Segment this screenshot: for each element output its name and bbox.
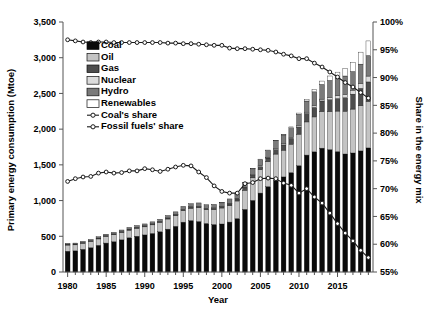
legend-label-oil: Oil	[101, 51, 114, 62]
bar-segment-coal	[358, 151, 363, 272]
bar-segment-hydro	[281, 135, 286, 144]
line-marker	[151, 41, 155, 45]
y-tick-label-right: 75%	[380, 156, 398, 166]
bar-segment-coal	[158, 232, 163, 272]
bar-segment-gas	[320, 101, 325, 112]
y-tick-label-left: 2,500	[33, 89, 56, 99]
x-tick-label: 2005	[250, 281, 270, 291]
chart-canvas: 05001,0001,5002,0002,5003,0003,50055%60%…	[0, 0, 427, 317]
bar-segment-coal	[281, 177, 286, 272]
line-marker	[251, 47, 255, 51]
bar-segment-coal	[104, 243, 109, 272]
bar-segment-gas	[304, 114, 309, 122]
line-marker	[336, 222, 340, 226]
line-marker	[251, 181, 255, 185]
line-marker	[274, 177, 278, 181]
bar-segment-hydro	[250, 169, 255, 175]
bar-segment-hydro	[327, 80, 332, 97]
bar-segment-coal	[173, 226, 178, 272]
bar-segment-oil	[212, 210, 217, 225]
legend-label-coal-s-share: Coal's share	[101, 109, 157, 120]
bar-segment-hydro	[312, 92, 317, 106]
bar-segment-oil	[165, 219, 170, 229]
bar-segment-renewables	[289, 127, 294, 128]
line-marker	[205, 176, 209, 180]
line-marker	[228, 46, 232, 50]
bar-segment-oil	[327, 112, 332, 150]
legend-label-gas: Gas	[101, 62, 119, 73]
bar-segment-coal	[150, 233, 155, 272]
bar-segment-coal	[351, 153, 356, 272]
bar-segment-coal	[135, 236, 140, 272]
y-axis-right-title: Share in the energy mix	[414, 96, 425, 204]
bar-segment-hydro	[65, 243, 70, 244]
bar-segment-oil	[96, 239, 101, 245]
bar-segment-nuclear	[343, 94, 348, 97]
line-marker	[189, 164, 193, 168]
bar-segment-gas	[327, 100, 332, 112]
bar-segment-coal	[312, 152, 317, 272]
legend-marker	[91, 125, 95, 129]
bar-segment-coal	[258, 193, 263, 272]
bar-segment-hydro	[297, 114, 302, 126]
bar-segment-hydro	[150, 222, 155, 224]
bar-segment-coal	[320, 148, 325, 272]
legend-label-nuclear: Nuclear	[101, 74, 136, 85]
bar-segment-oil	[81, 243, 86, 249]
bar-segment-coal	[212, 225, 217, 273]
bar-segment-renewables	[304, 99, 309, 101]
x-tick-label: 2000	[212, 281, 232, 291]
bar-segment-oil	[235, 201, 240, 219]
y-tick-label-left: 1,500	[33, 160, 56, 170]
bar-segment-nuclear	[304, 112, 309, 113]
line-marker	[351, 239, 355, 243]
line-marker	[297, 191, 301, 195]
line-marker	[220, 43, 224, 47]
bar-segment-oil	[289, 144, 294, 173]
bar-segment-nuclear	[320, 99, 325, 101]
bar-segment-hydro	[189, 204, 194, 207]
y-tick-label-right: 85%	[380, 101, 398, 111]
bar-segment-coal	[112, 242, 117, 272]
line-marker	[174, 41, 178, 45]
line-marker	[151, 168, 155, 172]
line-marker	[312, 195, 316, 199]
bar-segment-oil	[366, 101, 371, 147]
bar-segment-hydro	[273, 141, 278, 149]
line-marker	[181, 163, 185, 167]
legend-label-fossil-fuels-share: Fossil fuels' share	[101, 120, 184, 131]
line-marker	[343, 81, 347, 85]
legend-swatch-coal	[87, 42, 99, 50]
y-tick-label-right: 100%	[380, 17, 403, 27]
line-marker	[266, 48, 270, 52]
line-marker	[343, 231, 347, 235]
y-tick-label-left: 1,000	[33, 196, 56, 206]
bar-segment-nuclear	[366, 76, 371, 82]
bar-segment-oil	[65, 245, 70, 251]
line-marker	[366, 96, 370, 100]
line-marker	[81, 40, 85, 44]
bar-segment-oil	[135, 228, 140, 236]
bar-segment-oil	[335, 111, 340, 152]
bar-segment-coal	[196, 222, 201, 273]
line-marker	[282, 52, 286, 56]
line-marker	[73, 39, 77, 43]
bar-segment-coal	[181, 222, 186, 272]
line-marker	[73, 177, 77, 181]
bar-segment-gas	[312, 107, 317, 117]
bar-segment-oil	[243, 190, 248, 209]
line-marker	[127, 169, 131, 173]
line-marker	[305, 187, 309, 191]
bar-segment-oil	[297, 134, 302, 166]
line-marker	[189, 42, 193, 46]
bar-segment-hydro	[119, 230, 124, 232]
bar-segment-nuclear	[335, 96, 340, 99]
bar-segment-oil	[158, 222, 163, 231]
bar-segment-hydro	[104, 234, 109, 236]
bar-segment-oil	[266, 162, 271, 187]
line-marker	[305, 57, 309, 61]
y-tick-label-right: 95%	[380, 45, 398, 55]
bar-segment-oil	[281, 150, 286, 177]
bar-segment-gas	[297, 127, 302, 134]
x-tick-label: 1980	[58, 281, 78, 291]
